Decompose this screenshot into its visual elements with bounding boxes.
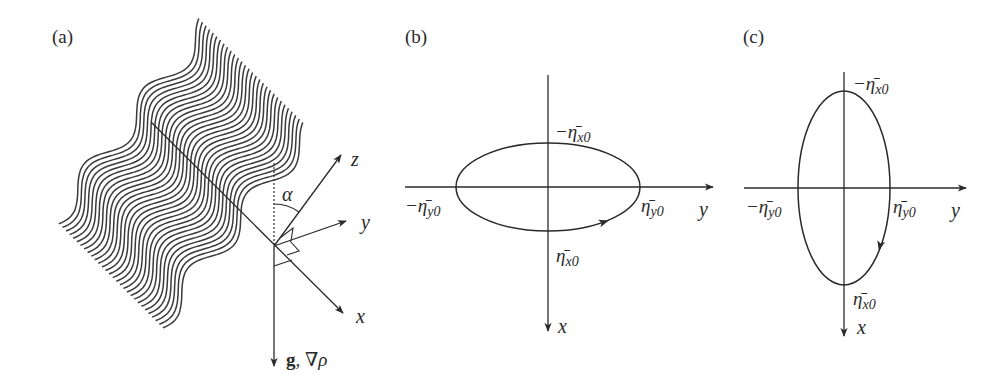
panel-b-right-label: η̄y0	[641, 195, 664, 219]
panel-a: (a) z y x α g, ∇ρ	[52, 19, 370, 370]
panel-b-left-label: −η̄y0	[405, 195, 440, 219]
wave-band	[59, 19, 303, 328]
alpha-label: α	[282, 183, 293, 205]
panel-c-label: (c)	[743, 26, 764, 48]
z-axis-label: z	[350, 148, 359, 170]
right-angle-marker-xg	[274, 260, 292, 266]
panel-b-top-label: −η̄x0	[555, 121, 590, 145]
alpha-arc	[274, 204, 299, 212]
panel-c-bottom-label: η̄x0	[853, 288, 876, 312]
gravity-symbol: g	[286, 349, 296, 370]
panel-b-x-label: x	[557, 315, 567, 337]
panel-b-label: (b)	[405, 26, 427, 48]
x-axis-label: x	[355, 305, 365, 327]
right-angle-marker-yx	[287, 241, 299, 255]
panel-b-bottom-label: η̄x0	[556, 245, 579, 269]
panel-c-x-label: x	[856, 316, 866, 338]
panel-c-top-label: −η̄x0	[853, 73, 888, 97]
panel-b: (b) −η̄x0 η̄x0 −η̄y0 η̄y0 y x	[405, 26, 713, 337]
figure: (a) z y x α g, ∇ρ (b) −η	[0, 0, 1004, 380]
y-axis-label: y	[359, 211, 370, 234]
panel-c-right-label: η̄y0	[893, 196, 916, 220]
y-axis-arrow	[274, 221, 346, 246]
panel-c: (c) −η̄x0 η̄x0 −η̄y0 η̄y0 y x	[743, 26, 966, 338]
density-gradient-symbol: , ∇ρ	[296, 349, 328, 370]
panel-c-left-label: −η̄y0	[746, 196, 781, 220]
panel-c-y-label: y	[949, 199, 960, 222]
panel-b-y-label: y	[697, 198, 708, 221]
gravity-label: g, ∇ρ	[286, 349, 327, 370]
panel-a-label: (a)	[52, 26, 73, 48]
